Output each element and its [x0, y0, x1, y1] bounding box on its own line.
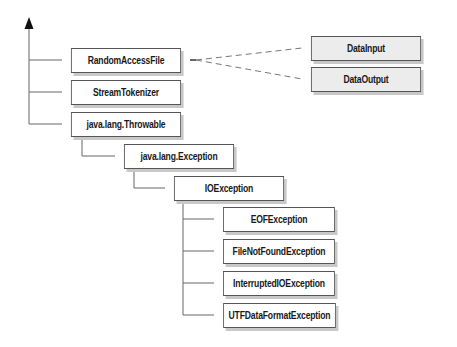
class-box-streamtokenizer[interactable]: StreamTokenizer	[71, 80, 181, 105]
class-hierarchy-diagram: RandomAccessFile StreamTokenizer java.la…	[0, 0, 457, 347]
class-label: InterruptedIOException	[233, 278, 325, 289]
class-label: EOFException	[251, 214, 308, 225]
class-label: FileNotFoundException	[233, 246, 326, 257]
class-label: java.lang.Throwable	[87, 119, 166, 130]
class-label: RandomAccessFile	[88, 55, 165, 66]
class-label: java.lang.Exception	[140, 151, 217, 162]
implements-datainput-dashed-line	[196, 48, 302, 60]
interface-label: DataOutput	[343, 74, 388, 85]
interface-box-datainput[interactable]: DataInput	[311, 36, 421, 61]
class-box-eofexception[interactable]: EOFException	[223, 207, 335, 232]
class-label: StreamTokenizer	[93, 87, 159, 98]
class-box-randomaccessfile[interactable]: RandomAccessFile	[71, 48, 181, 73]
interface-box-dataoutput[interactable]: DataOutput	[311, 67, 421, 92]
class-box-interruptedioexception[interactable]: InterruptedIOException	[223, 271, 335, 296]
inheritance-arrow-up-icon	[25, 17, 34, 29]
implements-dataoutput-dashed-line	[196, 60, 302, 79]
class-box-exception[interactable]: java.lang.Exception	[124, 144, 234, 169]
class-label: IOException	[205, 183, 253, 194]
class-box-utfdataformatexception[interactable]: UTFDataFormatException	[223, 303, 336, 328]
interface-label: DataInput	[347, 43, 385, 54]
class-box-throwable[interactable]: java.lang.Throwable	[71, 112, 181, 137]
class-box-filenotfoundexception[interactable]: FileNotFoundException	[223, 239, 335, 264]
class-label: UTFDataFormatException	[229, 310, 331, 321]
class-box-ioexception[interactable]: IOException	[174, 176, 284, 201]
